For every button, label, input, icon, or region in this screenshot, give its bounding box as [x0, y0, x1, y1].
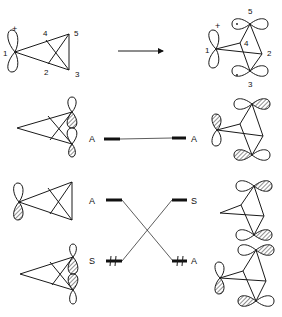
p-orbital-lobe	[232, 66, 250, 77]
electron-mark	[110, 256, 111, 266]
diagram-svg: + 1 2 3 4 5 + 1 2 3 4 5	[0, 0, 282, 317]
correlation-diagram: + 1 2 3 4 5 + 1 2 3 4 5	[0, 0, 282, 317]
electron-mark	[115, 256, 116, 266]
product-charge: +	[215, 21, 220, 31]
product-orbital-row3	[215, 245, 274, 307]
level-label: A	[191, 134, 197, 144]
atom-label: 5	[74, 29, 79, 38]
level-label: A	[191, 256, 197, 266]
reactant-orbital-row3	[20, 244, 78, 304]
atom-label: 3	[248, 80, 253, 89]
atom-label: 2	[44, 68, 49, 77]
electron-mark	[182, 256, 183, 266]
level-top: A A	[89, 134, 197, 144]
atom-label: 5	[248, 7, 253, 16]
atom-label: 2	[267, 49, 272, 58]
product-structure: + 1 2 3 4 5	[205, 7, 272, 89]
level-label: A	[89, 134, 95, 144]
atom-label: 1	[3, 49, 8, 58]
p-orbital-lobe	[8, 52, 18, 72]
electron-mark	[177, 256, 178, 266]
product-orbital-row1	[212, 99, 270, 161]
reactant-orbital-row1	[17, 97, 77, 157]
p-orbital-lobe	[250, 19, 268, 30]
atom-label: 3	[75, 70, 80, 79]
level-label: S	[89, 256, 95, 266]
reactant-orbital-row2	[14, 182, 72, 220]
level-crossing: A S S A	[89, 196, 197, 266]
level-label: A	[89, 196, 95, 206]
product-orbital-row2	[220, 181, 272, 241]
atom-label: 4	[244, 39, 249, 48]
atom-label: 1	[205, 46, 210, 55]
p-orbital-lobe	[209, 49, 219, 68]
p-orbital-lobe	[232, 19, 250, 30]
reactant-charge: +	[12, 24, 17, 34]
atom-label: 4	[43, 29, 48, 38]
level-label: S	[191, 196, 197, 206]
p-orbital-lobe	[209, 30, 219, 49]
radical-dot	[236, 74, 238, 76]
reactant-structure: + 1 2 3 4 5	[3, 24, 80, 79]
radical-dot	[236, 23, 238, 25]
